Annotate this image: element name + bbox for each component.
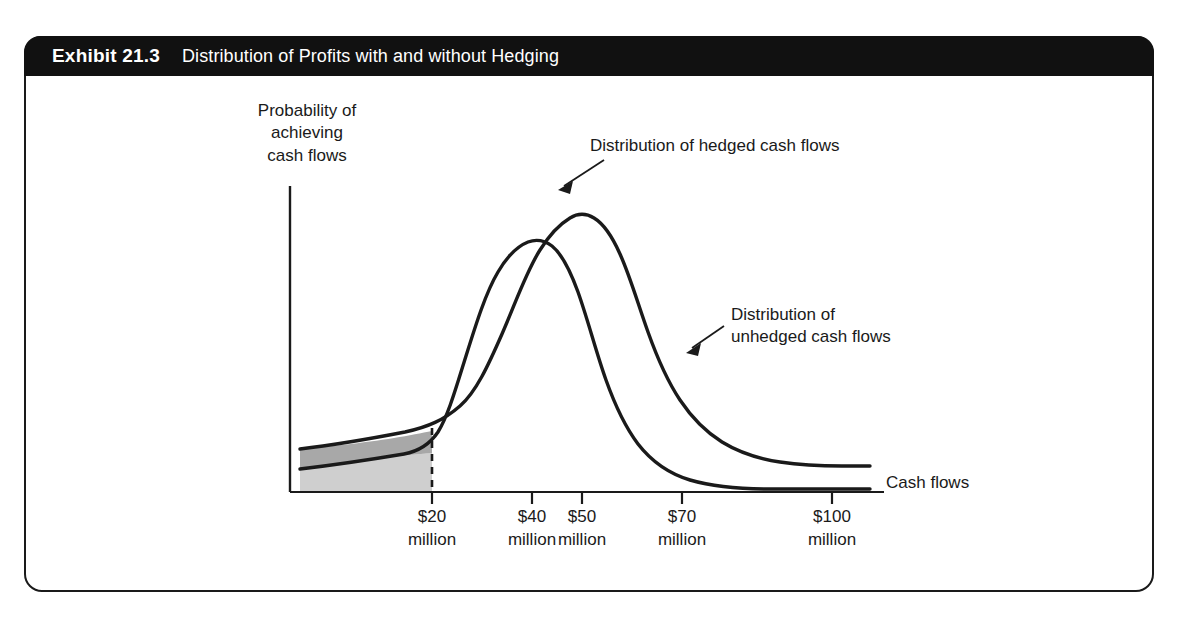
annotation-unhedged-line2: unhedged cash flows xyxy=(731,327,891,346)
exhibit-title: Distribution of Profits with and without… xyxy=(182,46,559,67)
x-tick-label-70-unit: million xyxy=(637,529,727,552)
x-tick-label-20-unit: million xyxy=(387,529,477,552)
y-axis-label-line3: cash flows xyxy=(267,146,346,165)
x-tick-label-20-amount: $20 xyxy=(387,506,477,529)
exhibit-header: Exhibit 21.3 Distribution of Profits wit… xyxy=(24,36,1154,76)
annotation-hedged-label: Distribution of hedged cash flows xyxy=(590,135,839,157)
y-axis-label-line2: achieving xyxy=(271,123,343,142)
x-tick-label-20: $20 million xyxy=(387,506,477,552)
x-tick-label-50: $50 million xyxy=(537,506,627,552)
annotation-arrow-hedged xyxy=(558,160,604,194)
x-axis-label: Cash flows xyxy=(886,473,969,493)
x-tick-label-100: $100 million xyxy=(787,506,877,552)
exhibit-container: Exhibit 21.3 Distribution of Profits wit… xyxy=(0,0,1184,619)
y-axis-label-line1: Probability of xyxy=(258,101,356,120)
x-tick-label-70-amount: $70 xyxy=(637,506,727,529)
x-tick-label-100-amount: $100 xyxy=(787,506,877,529)
annotation-arrow-unhedged xyxy=(686,326,724,356)
exhibit-number: Exhibit 21.3 xyxy=(52,45,160,67)
annotation-unhedged-label: Distribution of unhedged cash flows xyxy=(731,304,891,348)
annotation-unhedged-line1: Distribution of xyxy=(731,305,835,324)
chart-plot-area: Probability of achieving cash flows Dist… xyxy=(24,76,1154,592)
x-tick-label-70: $70 million xyxy=(637,506,727,552)
x-tick-label-50-unit: million xyxy=(537,529,627,552)
y-axis-label: Probability of achieving cash flows xyxy=(202,100,412,167)
x-tick-label-100-unit: million xyxy=(787,529,877,552)
x-tick-label-50-amount: $50 xyxy=(537,506,627,529)
